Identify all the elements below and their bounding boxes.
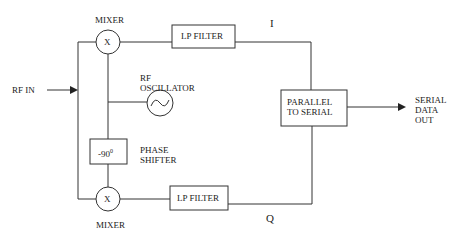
output-arrowhead-icon bbox=[398, 103, 406, 111]
mixer-top-label: MIXER bbox=[95, 15, 124, 25]
phase-shifter-value: -900 bbox=[98, 146, 113, 159]
rf-in-label: RF IN bbox=[12, 85, 35, 95]
serial-data-out-label: SERIAL DATA OUT bbox=[415, 95, 447, 125]
mixer-bottom-symbol: X bbox=[104, 194, 111, 204]
lp-filter-top-label: LP FILTER bbox=[181, 31, 223, 41]
phase-value: -90 bbox=[98, 149, 110, 159]
q-channel-label: Q bbox=[266, 213, 274, 223]
lp-filter-bottom-label: LP FILTER bbox=[177, 193, 219, 203]
block-diagram bbox=[0, 0, 457, 239]
phase-shifter-label: PHASE SHIFTER bbox=[140, 145, 177, 165]
phase-degree: 0 bbox=[110, 148, 113, 154]
rf-in-arrowhead-icon bbox=[70, 86, 78, 94]
rf-oscillator-label: RF OSCILLATOR bbox=[140, 73, 195, 93]
parallel-to-serial-label: PARALLEL TO SERIAL bbox=[287, 97, 333, 117]
mixer-bottom-label: MIXER bbox=[96, 220, 125, 230]
i-channel-label: I bbox=[270, 18, 274, 28]
mixer-top-symbol: X bbox=[104, 37, 111, 47]
